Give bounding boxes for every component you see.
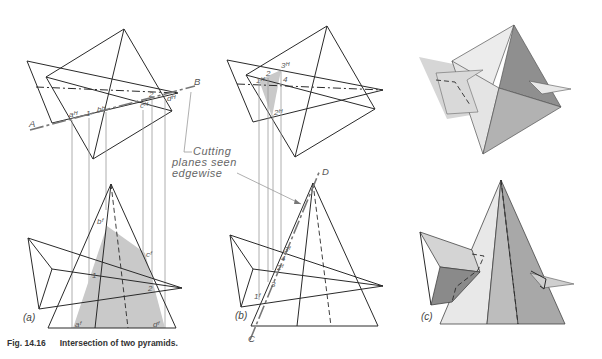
panel-a: A B aᴴ 1 bᴴ cᴴ 2 dᴴ bᶠ <box>23 29 201 329</box>
panel-b-top-view: 1ᴴ 2 3ᴴ 4 2ᴴ <box>227 26 383 157</box>
label-b-front: bᶠ <box>97 217 104 226</box>
annotation-line-3: edgewise <box>172 167 222 179</box>
label-3-front: 3ᶠ <box>284 245 291 254</box>
panel-b: 1ᴴ 2 3ᴴ 4 2ᴴ C D 3ᶠ 4 2ᶠ 3 1ᶠ ( <box>227 26 383 344</box>
panel-label-a: (a) <box>23 312 35 323</box>
label-c-top: cᴴ <box>140 101 149 110</box>
label-D: D <box>322 166 329 177</box>
caption-text: Intersection of two pyramids. <box>60 338 178 348</box>
label-d-top: dᴴ <box>167 94 176 103</box>
label-C: C <box>248 333 255 344</box>
label-2-top: 2 <box>265 69 271 78</box>
label-1-front: 1 <box>92 271 96 280</box>
label-3-top: 3ᴴ <box>281 61 290 70</box>
figure-canvas: A B aᴴ 1 bᴴ cᴴ 2 dᴴ bᶠ <box>0 0 602 359</box>
label-b-top: bᴴ <box>97 105 106 114</box>
panel-a-front-view: bᶠ cᶠ 1 2 aᶠ dᶠ (a) <box>23 184 182 329</box>
label-a-top: aᴴ <box>69 110 78 119</box>
panel-label-c: (c) <box>421 311 433 322</box>
label-1-top: 1ᴴ <box>256 76 265 85</box>
label-1-top: 1 <box>86 109 90 118</box>
label-A: A <box>28 118 35 129</box>
panel-label-b: (b) <box>235 310 247 321</box>
panel-b-front-view: C D 3ᶠ 4 2ᶠ 3 1ᶠ (b) <box>230 166 383 344</box>
pyramid-front-outline <box>251 183 378 326</box>
panel-c: (c) <box>419 25 574 324</box>
label-1-front: 1ᶠ <box>254 292 261 301</box>
small-pyramid-upper-face <box>420 232 480 272</box>
label-2-top: 2 <box>148 90 154 99</box>
label-2-front: 2 <box>147 284 153 293</box>
figure-caption: Fig. 14.16Intersection of two pyramids. <box>7 338 178 348</box>
label-4-top: 4 <box>283 75 288 84</box>
hidden-edge <box>36 87 178 93</box>
label-B: B <box>194 76 201 87</box>
label-2h-top: 2ᴴ <box>273 108 283 117</box>
small-pyramid-front-outline <box>230 235 383 307</box>
panel-c-bottom-pictorial: (c) <box>420 180 574 324</box>
panel-a-top-view: A B aᴴ 1 bᴴ cᴴ 2 dᴴ <box>27 29 201 159</box>
caption-number: Fig. 14.16 <box>7 338 46 348</box>
panel-c-top-pictorial <box>419 25 571 154</box>
label-4-front: 4 <box>281 254 286 263</box>
label-3b-front: 3 <box>271 280 276 289</box>
label-2-front: 2ᶠ <box>276 263 284 272</box>
intersection-shaded-area <box>73 226 165 328</box>
